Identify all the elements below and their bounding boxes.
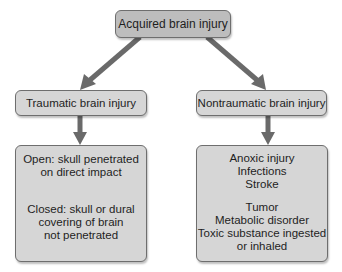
cause-item: Toxic substance ingested (198, 227, 327, 240)
open-injury-description: Open: skull penetrated on direct impact (23, 153, 139, 179)
text-line: covering of brain (27, 216, 134, 229)
node-traumatic-types: Open: skull penetrated on direct impact … (15, 145, 147, 262)
cause-item: Anoxic injury (229, 152, 294, 165)
arrow-root-to-nontraumatic (207, 37, 257, 80)
node-nontraumatic-causes: Anoxic injury Infections Stroke Tumor Me… (196, 145, 328, 262)
node-label: Nontraumatic brain injury (198, 97, 326, 110)
cause-item: Metabolic disorder (198, 214, 327, 227)
text-line: on direct impact (23, 166, 139, 179)
node-acquired-brain-injury: Acquired brain injury (115, 10, 231, 38)
closed-injury-description: Closed: skull or dural covering of brain… (27, 203, 134, 242)
text-line: Open: skull penetrated (23, 153, 139, 166)
cause-item: or inhaled (198, 240, 327, 253)
cause-item: Tumor (198, 201, 327, 214)
node-nontraumatic-brain-injury: Nontraumatic brain injury (196, 90, 327, 116)
arrowhead-nontraumatic-to-detail (261, 132, 275, 145)
node-traumatic-brain-injury: Traumatic brain injury (15, 90, 147, 116)
cause-item: Infections (229, 165, 294, 178)
cause-group-2: Tumor Metabolic disorder Toxic substance… (198, 201, 327, 253)
arrowhead-traumatic-to-detail (73, 132, 87, 145)
text-line: Closed: skull or dural (27, 203, 134, 216)
arrow-root-to-traumatic (90, 37, 140, 80)
cause-item: Stroke (229, 178, 294, 191)
node-label: Traumatic brain injury (26, 97, 136, 110)
text-line: not penetrated (27, 229, 134, 242)
node-label: Acquired brain injury (118, 18, 227, 31)
cause-group-1: Anoxic injury Infections Stroke (229, 152, 294, 191)
